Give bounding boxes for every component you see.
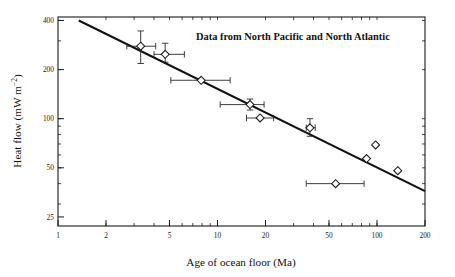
- plot-title: Data from North Pacific and North Atlant…: [196, 31, 390, 42]
- y-tick-label: 200: [43, 65, 54, 74]
- chart-canvas: 125102050100200 4002001005025 Data from …: [0, 0, 455, 277]
- y-axis-title: Heat flow (mW m−2): [10, 74, 25, 168]
- y-tick-label: 25: [47, 213, 55, 222]
- y-axis-title-main: Heat flow (mW m: [11, 86, 24, 168]
- x-tick-label: 2: [104, 231, 108, 240]
- x-tick-label: 1: [56, 231, 60, 240]
- y-tick-label: 100: [43, 114, 54, 123]
- x-tick-label: 200: [419, 231, 430, 240]
- x-tick-label: 100: [371, 231, 382, 240]
- y-axis-title-close: ): [11, 74, 24, 78]
- x-tick-label: 50: [325, 231, 333, 240]
- x-tick-label: 10: [214, 231, 222, 240]
- heat-flow-figure: 125102050100200 4002001005025 Data from …: [0, 0, 455, 277]
- x-tick-label: 5: [168, 231, 172, 240]
- x-axis-title: Age of ocean floor (Ma): [186, 256, 296, 269]
- x-tick-label: 20: [262, 231, 270, 240]
- y-axis-title-exponent: −2: [10, 78, 19, 86]
- y-tick-label: 50: [47, 163, 55, 172]
- y-tick-label: 400: [43, 16, 54, 25]
